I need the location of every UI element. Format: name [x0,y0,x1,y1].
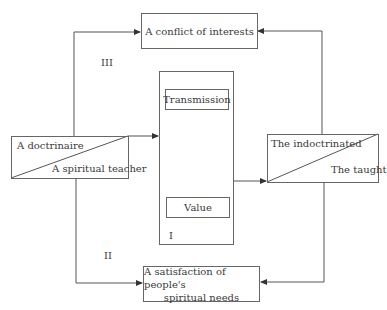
path-label-ii: II [104,251,112,261]
satisfaction-label-line1: A satisfaction of people's [144,265,259,291]
satisfaction-box: A satisfaction of people's spiritual nee… [143,266,260,302]
spiritual-teacher-label: A spiritual teacher [52,164,147,174]
value-label: Value [184,202,212,213]
transmission-label: Transmission [163,94,231,105]
conflict-label: A conflict of interests [145,26,254,37]
transmission-box: Transmission [165,89,229,110]
indoctrinated-label: The indoctrinated [271,139,362,149]
value-box: Value [166,197,230,218]
center-roman-label: I [169,231,173,241]
path-label-iii: III [101,58,113,68]
doctrinaire-label: A doctrinaire [17,141,84,151]
taught-label: The taught [331,165,387,175]
conflict-of-interests-box: A conflict of interests [141,13,258,49]
satisfaction-label-line2: spiritual needs [164,291,239,304]
